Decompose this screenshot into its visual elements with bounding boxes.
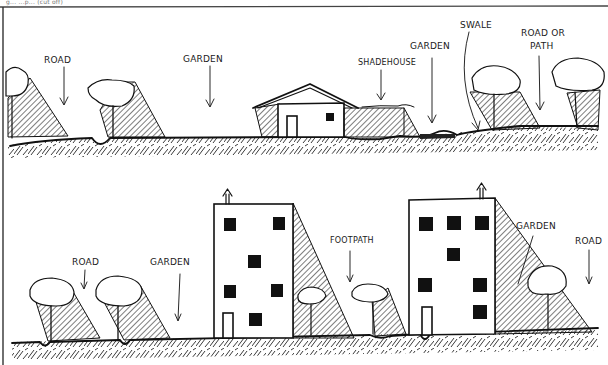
door: [287, 116, 297, 137]
svg-text:GARDEN: GARDEN: [150, 257, 190, 267]
window: [326, 113, 334, 121]
svg-text:FOOTPATH: FOOTPATH: [330, 236, 374, 245]
label-shadehouse: SHADEHOUSE: [358, 58, 416, 100]
label-garden: GARDEN: [150, 257, 190, 321]
small-tree: [352, 284, 406, 336]
shadehouse: [344, 105, 420, 137]
door: [223, 313, 233, 338]
section-bottom: ROAD GARDEN: [12, 183, 602, 360]
label-road: ROAD: [72, 257, 99, 289]
svg-text:SWALE: SWALE: [460, 20, 492, 30]
svg-text:GARDEN: GARDEN: [183, 54, 223, 64]
label-garden: GARDEN: [183, 54, 223, 107]
tree: [88, 80, 165, 137]
landscape-section-diagram: g... ...p... (cut off) ROAD GARDEN: [0, 0, 608, 365]
tree: [6, 67, 68, 138]
svg-text:PATH: PATH: [530, 41, 553, 51]
svg-text:GARDEN: GARDEN: [410, 41, 450, 51]
svg-text:ROAD: ROAD: [44, 55, 71, 65]
tree: [552, 58, 604, 130]
building: [409, 183, 592, 335]
tree: [30, 278, 100, 341]
svg-text:ROAD OR: ROAD OR: [521, 28, 565, 38]
svg-text:ROAD: ROAD: [72, 257, 99, 267]
svg-text:ROAD: ROAD: [575, 236, 602, 246]
svg-text:GARDEN: GARDEN: [516, 221, 556, 231]
tree: [470, 66, 540, 130]
door: [422, 307, 432, 335]
label-garden-2: GARDEN: [410, 41, 450, 123]
label-road-2: ROAD: [575, 236, 602, 284]
section-top: ROAD GARDEN: [6, 20, 604, 158]
caption-fragment: g... ...p... (cut off): [6, 0, 63, 6]
tree: [96, 276, 170, 340]
svg-text:SHADEHOUSE: SHADEHOUSE: [358, 58, 416, 67]
building: [214, 189, 354, 338]
label-footpath: FOOTPATH: [330, 236, 374, 282]
label-road: ROAD: [44, 55, 71, 105]
house: [253, 84, 358, 137]
